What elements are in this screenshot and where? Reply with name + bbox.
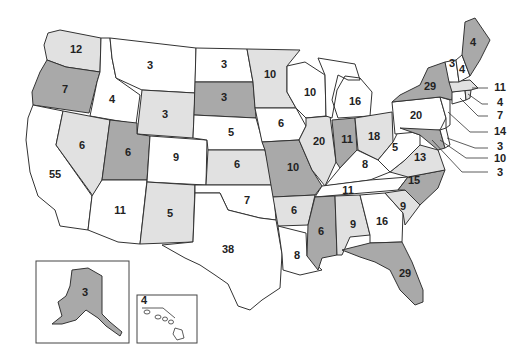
label-ok: 7 (244, 194, 250, 206)
label-or: 7 (62, 83, 68, 95)
label-hi: 4 (141, 294, 148, 306)
label-sd: 3 (221, 91, 227, 103)
state-ny[interactable] (392, 62, 453, 102)
label-ny: 29 (424, 80, 436, 92)
label-nm: 5 (167, 207, 173, 219)
label-dc: 3 (497, 166, 503, 178)
label-nj: 14 (494, 125, 507, 137)
label-vt: 3 (449, 57, 455, 69)
state-mi[interactable] (318, 58, 372, 118)
label-ca: 55 (49, 168, 61, 180)
label-me: 4 (470, 36, 477, 48)
label-co: 9 (173, 151, 179, 163)
label-de: 3 (497, 140, 503, 152)
label-wa: 12 (70, 43, 82, 55)
label-az: 11 (114, 204, 126, 216)
label-sc: 9 (400, 200, 406, 212)
label-nd: 3 (221, 58, 227, 70)
label-nv: 6 (79, 139, 85, 151)
label-ut: 6 (125, 146, 131, 158)
label-ne: 5 (228, 126, 234, 138)
label-ma: 11 (494, 81, 506, 93)
state-ri[interactable] (465, 90, 471, 100)
label-mn: 10 (264, 68, 276, 80)
label-ms: 6 (318, 225, 324, 237)
us-electoral-map: 12 7 55 4 6 3 3 6 11 9 5 3 3 5 6 7 38 10… (0, 0, 518, 362)
label-wi: 10 (304, 86, 316, 98)
label-wy: 3 (162, 108, 168, 120)
label-in: 11 (341, 133, 353, 145)
label-tx: 38 (222, 243, 234, 255)
label-wv: 5 (392, 141, 398, 153)
label-ct: 7 (497, 109, 503, 121)
label-id: 4 (109, 93, 116, 105)
label-va: 13 (414, 151, 426, 163)
label-ga: 16 (376, 215, 388, 227)
label-ar: 6 (291, 204, 297, 216)
label-ks: 6 (234, 158, 240, 170)
label-mt: 3 (147, 59, 153, 71)
label-ri: 4 (497, 96, 504, 108)
label-md: 10 (494, 152, 506, 164)
label-nc: 15 (408, 174, 420, 186)
label-la: 8 (294, 249, 300, 261)
label-mo: 10 (287, 161, 299, 173)
label-ia: 6 (278, 117, 284, 129)
label-il: 20 (313, 135, 325, 147)
label-ky: 8 (362, 158, 368, 170)
label-pa: 20 (410, 109, 422, 121)
label-nh: 4 (459, 63, 466, 75)
label-oh: 18 (368, 130, 380, 142)
label-ak: 3 (82, 286, 88, 298)
label-fl: 29 (399, 267, 411, 279)
label-tn: 11 (342, 184, 354, 196)
label-al: 9 (350, 218, 356, 230)
label-mi: 16 (349, 95, 361, 107)
